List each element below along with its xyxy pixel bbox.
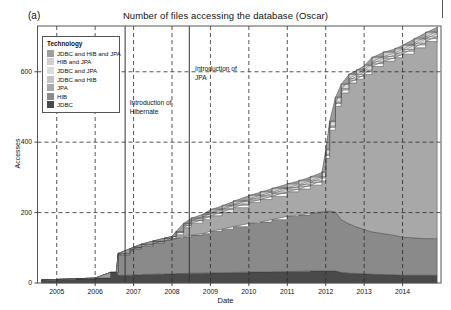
y-tick-label: 200 <box>6 209 32 216</box>
legend-item[interactable]: JDBC <box>47 101 116 110</box>
x-tick-label: 2009 <box>190 288 230 295</box>
introduction-of-hibernate: Introduction ofHibernate <box>130 98 172 116</box>
legend-title: Technology <box>47 40 116 47</box>
x-tick-label: 2012 <box>306 288 346 295</box>
legend-swatch-icon <box>47 58 54 65</box>
legend-item-label: JDBC and HIB and JPA <box>57 50 121 57</box>
y-tick-label: 0 <box>6 279 32 286</box>
figure-panel-a: (a) Number of files accessing the databa… <box>0 0 451 310</box>
legend-item-label: JDBC and JPA <box>57 67 97 74</box>
y-tick-label: 400 <box>6 138 32 145</box>
x-tick-label: 2007 <box>114 288 154 295</box>
x-tick-label: 2008 <box>152 288 192 295</box>
annotation-line: JPA <box>195 73 237 82</box>
annotation-line: Introduction of <box>130 98 172 107</box>
legend-item-label: JPA <box>57 84 68 91</box>
x-tick-label: 2013 <box>344 288 384 295</box>
legend-item-label: HIB and JPA <box>57 58 91 65</box>
legend-swatch-icon <box>47 93 54 100</box>
x-tick-label: 2011 <box>267 288 307 295</box>
legend-swatch-icon <box>47 67 54 74</box>
legend-item-label: JDBC and HIB <box>57 76 97 83</box>
legend-box[interactable]: Technology JDBC and HIB and JPAHIB and J… <box>42 36 120 113</box>
x-tick-label: 2006 <box>75 288 115 295</box>
x-tick-label: 2010 <box>229 288 269 295</box>
legend-swatch-icon <box>47 84 54 91</box>
legend-item[interactable]: HIB <box>47 92 116 101</box>
legend-item-label: JDBC <box>57 101 73 108</box>
legend-swatch-icon <box>47 76 54 83</box>
annotation-line: Hibernate <box>130 107 172 116</box>
x-tick-label: 2005 <box>37 288 77 295</box>
legend-swatch-icon <box>47 101 54 108</box>
legend-item[interactable]: JPA <box>47 83 116 92</box>
introduction-of-jpa: Introduction ofJPA <box>195 64 237 82</box>
x-tick-label: 2014 <box>383 288 423 295</box>
annotation-line: Introduction of <box>195 64 237 73</box>
y-tick-label: 600 <box>6 68 32 75</box>
legend-item[interactable]: JDBC and JPA <box>47 66 116 75</box>
legend-item[interactable]: HIB and JPA <box>47 58 116 67</box>
legend-item[interactable]: JDBC and HIB <box>47 75 116 84</box>
legend-item[interactable]: JDBC and HIB and JPA <box>47 49 116 58</box>
legend-swatch-icon <box>47 50 54 57</box>
legend-item-label: HIB <box>57 93 67 100</box>
